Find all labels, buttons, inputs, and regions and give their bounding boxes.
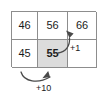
grid-cell-r2c2-highlighted: 55 <box>38 40 68 68</box>
grid-cell-r1c3: 66 <box>68 12 97 40</box>
plus-ten-arrow-icon <box>21 71 50 81</box>
number-grid-figure: 46 56 66 45 55 +1 +10 <box>0 0 107 96</box>
plus-ten-label: +10 <box>36 84 51 93</box>
grid-cell-r1c1: 46 <box>12 12 38 40</box>
number-grid: 46 56 66 45 55 <box>11 11 96 67</box>
grid-cell-r2c1: 45 <box>12 40 38 68</box>
plus-one-label: +1 <box>70 44 80 53</box>
grid-cell-r1c2: 56 <box>38 12 68 40</box>
